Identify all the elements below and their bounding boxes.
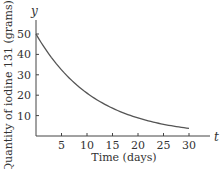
x-axis-label: Time (days)	[91, 151, 156, 164]
decay-curve	[36, 34, 189, 128]
y-tick-label: 50	[17, 28, 31, 41]
y-tick-label: 10	[17, 110, 31, 123]
x-tick-label: 30	[182, 139, 196, 152]
x-tick-label: 5	[58, 139, 65, 152]
y-tick-label: 20	[17, 89, 31, 102]
y-tick-label: 30	[17, 69, 31, 82]
y-axis-label: Quantity of iodine 131 (grams)	[2, 0, 15, 169]
decay-chart: 1020304050 51015202530 y t Time (days) Q…	[0, 0, 222, 169]
y-tick-label: 40	[17, 48, 31, 61]
y-axis: 1020304050	[17, 20, 39, 136]
y-axis-variable: y	[30, 4, 38, 18]
x-axis-variable: t	[214, 130, 219, 144]
x-axis: 51015202530	[36, 133, 210, 152]
x-tick-label: 25	[157, 139, 171, 152]
